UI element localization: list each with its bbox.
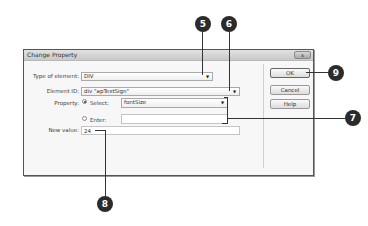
change-property-dialog: Change Property x Type of element: DIV ▼…: [23, 49, 314, 176]
ok-button[interactable]: OK: [270, 68, 310, 78]
new-value-label: New value:: [24, 127, 79, 133]
callout-7-bracket: [227, 97, 228, 124]
property-select-dropdown[interactable]: fontSize ▼: [121, 98, 228, 108]
element-id-label: Element ID:: [24, 88, 79, 94]
callout-7-bracket-top: [224, 97, 228, 98]
dropdown-arrow-icon: ▼: [221, 101, 224, 105]
callout-7-line: [228, 118, 345, 119]
help-button[interactable]: Help: [270, 99, 310, 109]
callout-7: 7: [345, 110, 361, 126]
title-bar[interactable]: Change Property x: [24, 50, 313, 61]
close-button[interactable]: x: [294, 51, 311, 59]
property-select-value: fontSize: [124, 99, 146, 105]
element-id-dropdown[interactable]: div "apTextSign" ▼: [81, 87, 240, 96]
type-of-element-label: Type of element:: [24, 73, 79, 79]
type-of-element-value: DIV: [84, 73, 94, 79]
select-radio-label: Select:: [90, 100, 109, 106]
close-icon: x: [301, 52, 304, 58]
dropdown-arrow-icon: ▼: [233, 90, 236, 94]
property-label: Property:: [24, 100, 79, 106]
callout-6: 6: [221, 16, 237, 32]
enter-radio[interactable]: [82, 116, 87, 121]
dropdown-arrow-icon: ▼: [206, 75, 209, 79]
callout-8: 8: [97, 196, 113, 212]
callout-9-line: [306, 72, 328, 73]
property-enter-input[interactable]: [121, 114, 228, 124]
element-id-value: div "apTextSign": [84, 88, 129, 94]
panel-divider: [263, 64, 264, 168]
dialog-title: Change Property: [27, 51, 77, 58]
callout-9: 9: [328, 65, 344, 81]
callout-8-line-v: [105, 130, 106, 196]
callout-5-line: [202, 32, 203, 75]
callout-7-bracket-bottom: [222, 123, 228, 124]
type-of-element-dropdown[interactable]: DIV ▼: [81, 72, 213, 81]
callout-5: 5: [195, 16, 211, 32]
cancel-button[interactable]: Cancel: [270, 85, 310, 95]
callout-8-line-h: [95, 130, 105, 131]
callout-6-line: [229, 32, 230, 91]
enter-radio-label: Enter:: [90, 117, 107, 123]
select-radio[interactable]: [82, 99, 87, 104]
